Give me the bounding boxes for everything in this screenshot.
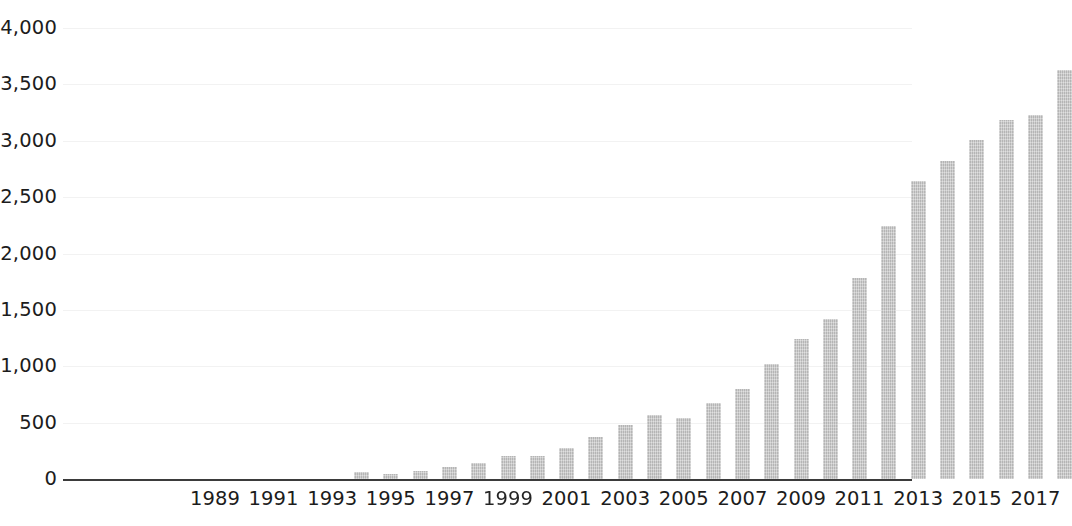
bar — [1028, 115, 1043, 479]
y-axis-tick-label: 1,000 — [0, 357, 57, 377]
x-axis-tick-label: 2011 — [835, 488, 885, 509]
bar — [588, 437, 603, 479]
y-axis-tick-label: 0 — [0, 469, 57, 489]
y-axis: 05001,0001,5002,0002,5003,0003,5004,000 — [0, 0, 57, 526]
x-axis-tick-label: 2015 — [952, 488, 1002, 509]
x-axis-tick-label: 2007 — [717, 488, 767, 509]
x-axis-tick-label: 1989 — [190, 488, 240, 509]
x-axis-line — [63, 479, 912, 481]
x-axis-tick-label: 2001 — [542, 488, 592, 509]
bar — [881, 226, 896, 479]
bar — [794, 339, 809, 479]
bar — [852, 278, 867, 479]
bar — [442, 467, 457, 479]
x-axis-tick-label: 2005 — [659, 488, 709, 509]
bar — [1057, 70, 1072, 479]
bar — [501, 456, 516, 479]
bar — [969, 140, 984, 479]
bar — [530, 456, 545, 479]
x-axis-tick-label: 1991 — [249, 488, 299, 509]
bar — [706, 403, 721, 479]
x-axis-tick-label: 2013 — [893, 488, 943, 509]
bar — [911, 181, 926, 479]
bar — [413, 471, 428, 479]
x-axis-tick-label: 1999 — [483, 488, 533, 509]
bar — [471, 463, 486, 479]
bar — [647, 415, 662, 479]
y-axis-tick-label: 1,500 — [0, 300, 57, 320]
bar — [764, 364, 779, 479]
y-axis-tick-label: 500 — [0, 413, 57, 433]
x-axis-tick-label: 1995 — [366, 488, 416, 509]
x-axis-tick-label: 1993 — [307, 488, 357, 509]
x-axis-tick-label: 1997 — [424, 488, 474, 509]
bar — [618, 425, 633, 479]
bar — [559, 448, 574, 479]
bar — [999, 120, 1014, 479]
y-axis-tick-label: 2,000 — [0, 244, 57, 264]
y-axis-tick-label: 4,000 — [0, 18, 57, 38]
y-axis-tick-label: 2,500 — [0, 187, 57, 207]
x-axis-tick-label: 2009 — [776, 488, 826, 509]
x-axis-tick-label: 2003 — [600, 488, 650, 509]
bars-layer — [63, 0, 912, 479]
bar — [354, 472, 369, 479]
bar — [676, 418, 691, 479]
bar — [735, 389, 750, 479]
bar — [823, 319, 838, 479]
x-axis: 1989199119931995199719992001200320052007… — [63, 488, 912, 522]
bar — [940, 161, 955, 479]
y-axis-tick-label: 3,500 — [0, 75, 57, 95]
y-axis-tick-label: 3,000 — [0, 131, 57, 151]
x-axis-tick-label: 2017 — [1010, 488, 1060, 509]
